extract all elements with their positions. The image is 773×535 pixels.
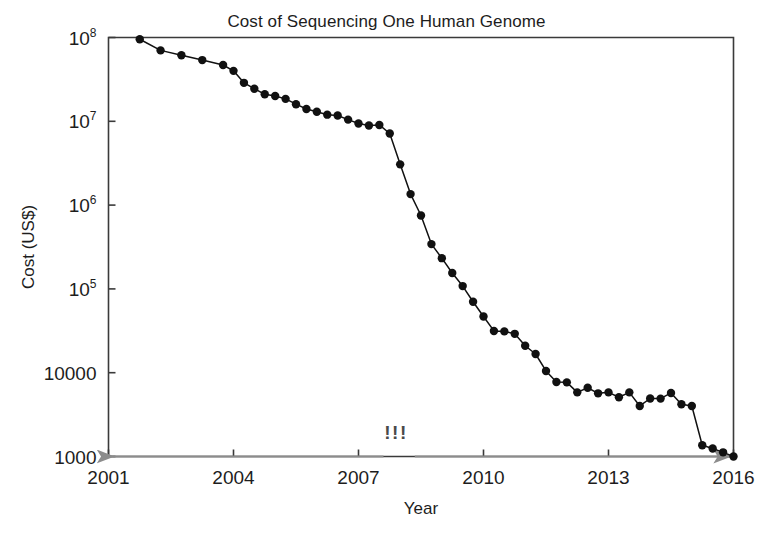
- data-point[interactable]: [229, 67, 237, 75]
- data-point[interactable]: [708, 444, 716, 452]
- data-point[interactable]: [198, 56, 206, 64]
- data-point[interactable]: [552, 378, 560, 386]
- data-point[interactable]: [594, 389, 602, 397]
- x-tick-label: 2016: [712, 467, 754, 488]
- data-point[interactable]: [177, 51, 185, 59]
- data-point[interactable]: [250, 84, 258, 92]
- data-point[interactable]: [636, 402, 644, 410]
- data-point[interactable]: [333, 111, 341, 119]
- x-tick-label: 2013: [587, 467, 629, 488]
- data-point[interactable]: [615, 393, 623, 401]
- data-point[interactable]: [719, 448, 727, 456]
- data-point[interactable]: [219, 61, 227, 69]
- data-point[interactable]: [583, 384, 591, 392]
- y-tick-label: 105: [69, 277, 97, 300]
- data-point[interactable]: [625, 388, 633, 396]
- exclamation-annotation: !!!: [384, 422, 407, 443]
- x-tick-label: 2001: [87, 467, 129, 488]
- data-point[interactable]: [656, 394, 664, 402]
- data-point[interactable]: [396, 160, 404, 168]
- data-line: [140, 39, 734, 456]
- x-tick-label: 2004: [212, 467, 255, 488]
- data-point[interactable]: [500, 327, 508, 335]
- y-tick-label: 107: [69, 109, 97, 132]
- data-point[interactable]: [531, 350, 539, 358]
- data-point[interactable]: [688, 402, 696, 410]
- data-point[interactable]: [511, 330, 519, 338]
- data-point[interactable]: [292, 100, 300, 108]
- data-point[interactable]: [375, 121, 383, 129]
- data-point[interactable]: [729, 452, 737, 460]
- data-point[interactable]: [677, 400, 685, 408]
- x-tick-label: 2010: [462, 467, 504, 488]
- data-point[interactable]: [469, 298, 477, 306]
- data-point[interactable]: [646, 394, 654, 402]
- data-point[interactable]: [417, 211, 425, 219]
- data-point[interactable]: [490, 327, 498, 335]
- y-axis-ticks: 100010000105106107108: [44, 26, 116, 468]
- data-point[interactable]: [136, 35, 144, 43]
- data-point[interactable]: [698, 441, 706, 449]
- chart-plot[interactable]: 100010000105106107108 200120042007201020…: [0, 0, 773, 535]
- data-point[interactable]: [354, 119, 362, 127]
- data-point[interactable]: [427, 240, 435, 248]
- data-point[interactable]: [240, 79, 248, 87]
- data-point[interactable]: [281, 95, 289, 103]
- data-point[interactable]: [521, 342, 529, 350]
- y-axis-title: Cost (US$): [19, 205, 38, 289]
- data-point[interactable]: [323, 110, 331, 118]
- data-point[interactable]: [458, 282, 466, 290]
- figure-container: Cost of Sequencing One Human Genome 1000…: [0, 0, 773, 535]
- data-point[interactable]: [406, 190, 414, 198]
- y-tick-label: 1000: [54, 447, 96, 468]
- data-point[interactable]: [667, 389, 675, 397]
- x-tick-label: 2007: [337, 467, 379, 488]
- data-point[interactable]: [604, 388, 612, 396]
- data-point[interactable]: [271, 92, 279, 100]
- data-point[interactable]: [386, 129, 394, 137]
- data-point-markers[interactable]: [136, 35, 738, 461]
- data-point[interactable]: [563, 378, 571, 386]
- data-point[interactable]: [573, 388, 581, 396]
- data-point[interactable]: [438, 254, 446, 262]
- y-tick-label: 108: [69, 26, 97, 49]
- data-point[interactable]: [261, 90, 269, 98]
- chart-annotations: !!!: [113, 422, 730, 456]
- data-point[interactable]: [156, 46, 164, 54]
- data-point[interactable]: [542, 367, 550, 375]
- axis-frame: [109, 38, 734, 457]
- data-point[interactable]: [313, 108, 321, 116]
- data-point[interactable]: [448, 269, 456, 277]
- y-tick-label: 10000: [44, 363, 97, 384]
- x-axis-ticks: 200120042007201020132016: [87, 450, 754, 488]
- data-point[interactable]: [302, 105, 310, 113]
- data-point[interactable]: [365, 121, 373, 129]
- y-tick-label: 106: [69, 193, 97, 216]
- data-point[interactable]: [479, 312, 487, 320]
- data-point[interactable]: [344, 115, 352, 123]
- x-axis-title: Year: [404, 499, 439, 518]
